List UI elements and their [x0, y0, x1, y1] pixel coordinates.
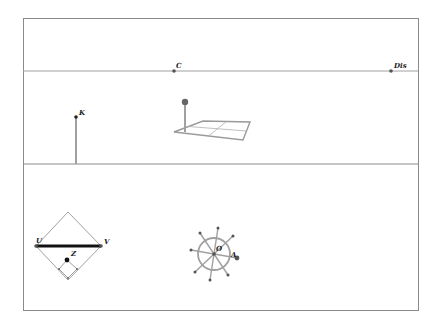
point-diamond-bottom — [67, 277, 69, 279]
label-u: U — [36, 236, 43, 245]
geometry-canvas: C Dis K U V Z O — [0, 0, 440, 326]
point-diamond-right — [76, 268, 78, 270]
label-o: O — [216, 244, 223, 253]
point-v[interactable] — [99, 244, 103, 248]
point-z[interactable] — [65, 258, 70, 263]
label-dis: Dis — [393, 61, 407, 70]
label-a: A — [230, 250, 237, 259]
sphere-handle-icon[interactable] — [182, 99, 188, 105]
point-dis[interactable] — [389, 69, 393, 73]
label-k: K — [78, 108, 86, 117]
label-z: Z — [70, 249, 77, 258]
point-diamond-left — [58, 268, 60, 270]
label-c: C — [176, 61, 182, 70]
label-v: V — [104, 237, 111, 246]
point-k[interactable] — [74, 115, 78, 119]
